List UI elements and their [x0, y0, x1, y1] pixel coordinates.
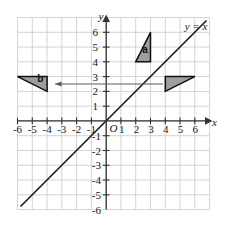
y-tick-label: -6 — [92, 204, 102, 216]
figure-background — [0, 0, 237, 227]
equation-label: y = x — [184, 20, 208, 32]
y-tick-label: -3 — [92, 159, 102, 171]
x-tick-label: 4 — [163, 123, 169, 135]
y-tick-label: 5 — [93, 41, 99, 53]
x-tick-label: 1 — [119, 123, 125, 135]
origin-label: O — [110, 122, 118, 134]
y-tick-label: -5 — [92, 189, 102, 201]
y-tick-label: 2 — [93, 85, 99, 97]
y-axis-label: y — [98, 10, 104, 22]
coordinate-plane-figure: b a x y O y = x -6 -5 -4 -3 -2 -1 1 2 3 … — [0, 0, 237, 227]
x-axis-label: x — [211, 116, 217, 128]
y-tick-label: 6 — [93, 26, 99, 38]
x-tick-label: 3 — [148, 123, 154, 135]
y-tick-label: 4 — [93, 56, 99, 68]
y-tick-label: -4 — [92, 174, 102, 186]
y-tick-label: -2 — [92, 145, 101, 157]
x-tick-label: 6 — [192, 123, 198, 135]
triangle-b-label: b — [37, 73, 43, 84]
x-tick-label: -4 — [43, 123, 53, 135]
triangle-a-label: a — [142, 44, 148, 55]
y-tick-label: 3 — [93, 71, 99, 83]
coordinate-plot: b a x y O y = x -6 -5 -4 -3 -2 -1 1 2 3 … — [0, 0, 237, 227]
x-tick-label: -5 — [28, 123, 38, 135]
y-tick-label: -1 — [92, 130, 101, 142]
x-tick-label: -6 — [13, 123, 23, 135]
x-tick-label: -2 — [72, 123, 81, 135]
x-tick-label: -3 — [57, 123, 67, 135]
y-tick-label: 1 — [93, 100, 99, 112]
x-tick-label: 2 — [134, 123, 140, 135]
x-tick-label: 5 — [178, 123, 184, 135]
